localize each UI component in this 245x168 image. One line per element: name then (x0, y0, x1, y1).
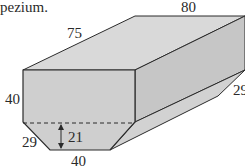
label-front-height: 40 (5, 91, 20, 107)
label-bottom-base: 40 (71, 153, 86, 168)
label-slant-right: 29 (233, 82, 245, 98)
label-top-edge: 75 (67, 25, 82, 41)
label-slant-left: 29 (22, 134, 37, 150)
label-length: 80 (181, 0, 196, 15)
label-trapezium-height: 21 (68, 129, 83, 145)
caption-text: pezium. (0, 0, 48, 15)
prism-diagram: pezium. 80 75 40 29 29 21 40 (0, 0, 245, 168)
